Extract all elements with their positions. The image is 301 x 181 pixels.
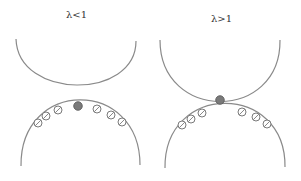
open-particle-icon: [178, 121, 186, 129]
open-particle-icon: [93, 105, 101, 113]
open-particle-icon: [187, 115, 195, 123]
open-particle-icon: [54, 106, 62, 114]
upper-surface-arc: [16, 39, 136, 85]
open-particle-icon: [118, 118, 126, 126]
lower-surface-arc: [165, 103, 285, 168]
open-particle-icon: [263, 120, 271, 128]
open-particle-icon: [107, 111, 115, 119]
open-particle-icon: [42, 112, 50, 120]
panel-left: [16, 39, 140, 166]
upper-surface-arc: [160, 40, 280, 102]
open-particle-icon: [238, 108, 246, 116]
filled-particle-icon: [74, 102, 83, 111]
panel-right: [160, 40, 285, 168]
diagram-canvas: [0, 0, 301, 181]
open-particle-icon: [34, 119, 42, 127]
open-particle-icon: [198, 109, 206, 117]
open-particle-icon: [252, 113, 260, 121]
filled-particle-icon: [216, 96, 225, 105]
